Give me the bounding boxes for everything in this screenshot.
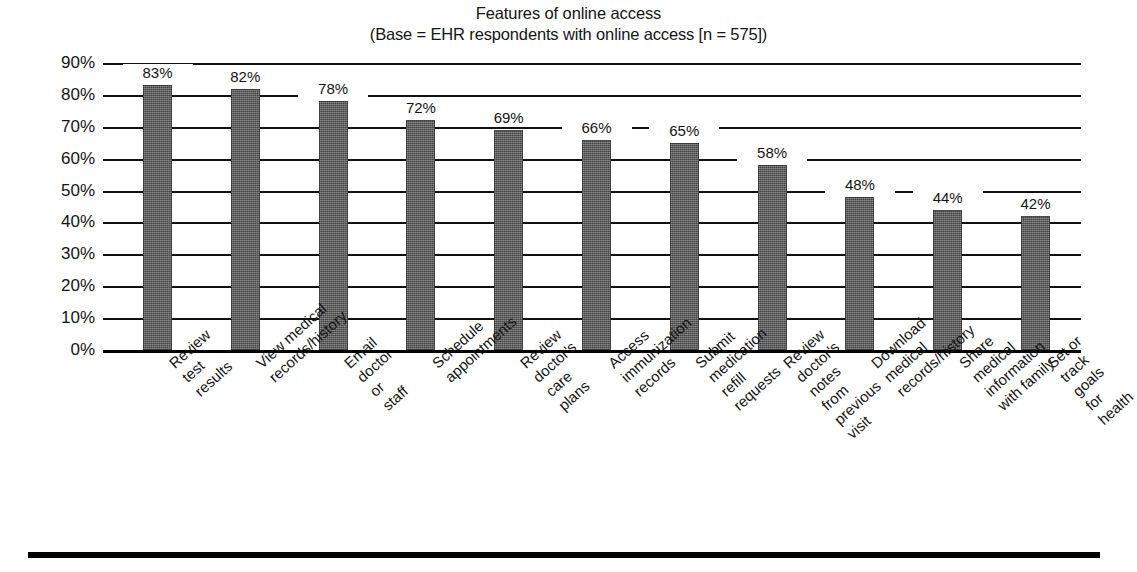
x-axis-tick-label-wrapper: Share medical information with family [955, 358, 956, 359]
x-axis-tick-label-wrapper: Schedule appointments [428, 358, 429, 359]
bar-value-label: 78% [298, 80, 368, 98]
y-axis-tick-label: 90% [31, 54, 95, 71]
y-axis-tick-label: 50% [31, 182, 95, 199]
bar-value-label: 82% [210, 68, 280, 86]
chart-title-block: Features of online access (Base = EHR re… [0, 3, 1137, 45]
bar-value-label: 65% [649, 122, 719, 140]
bar-value-label: 48% [825, 176, 895, 194]
bar [231, 89, 260, 350]
chart-subtitle: (Base = EHR respondents with online acce… [0, 24, 1137, 45]
bar-value-label: 42% [1001, 195, 1071, 213]
x-axis-tick-label-wrapper: Email doctor or staff [340, 358, 341, 359]
x-axis-tick-label-wrapper: Access immunization records [604, 358, 605, 359]
y-axis-tick-label: 60% [31, 150, 95, 167]
x-axis-tick-label: Set or track goals for health [1043, 331, 1137, 429]
bar-value-label: 83% [123, 64, 193, 82]
x-axis-tick-label-wrapper: Review doctor's care plans [516, 358, 517, 359]
y-axis-tick-label: 40% [31, 213, 95, 230]
y-axis-tick-label: 80% [31, 86, 95, 103]
x-axis-tick-label-wrapper: View medical records/history [252, 358, 253, 359]
y-axis-tick-label: 10% [31, 309, 95, 326]
footer-rule [28, 552, 1100, 558]
x-axis-tick-label-wrapper: Submit medication refill requests [691, 358, 692, 359]
bar-value-label: 72% [386, 99, 456, 117]
bar-value-label: 44% [913, 189, 983, 207]
y-axis-tick-label: 70% [31, 118, 95, 135]
bar [845, 197, 874, 350]
x-axis-tick-label-wrapper: Review doctor's notes from previous visi… [779, 358, 780, 359]
y-axis-tick-label: 20% [31, 277, 95, 294]
bar [143, 85, 172, 350]
bar-value-label: 69% [474, 109, 544, 127]
bar-value-label: 66% [562, 119, 632, 137]
page-title: Features of online access [0, 3, 1137, 24]
x-axis-tick-label-wrapper: Download medical records/history [867, 358, 868, 359]
x-axis-tick-label-wrapper: Set or track goals for health [1043, 358, 1044, 359]
y-axis-tick-label: 0% [31, 341, 95, 358]
chart-figure: Features of online access (Base = EHR re… [0, 0, 1137, 572]
bar-value-label: 58% [737, 144, 807, 162]
bar [758, 165, 787, 350]
x-axis-tick-label-wrapper: Review test results [165, 358, 166, 359]
gridline [103, 63, 1081, 65]
bar [582, 140, 611, 350]
bar [406, 120, 435, 350]
y-axis-tick-label: 30% [31, 245, 95, 262]
